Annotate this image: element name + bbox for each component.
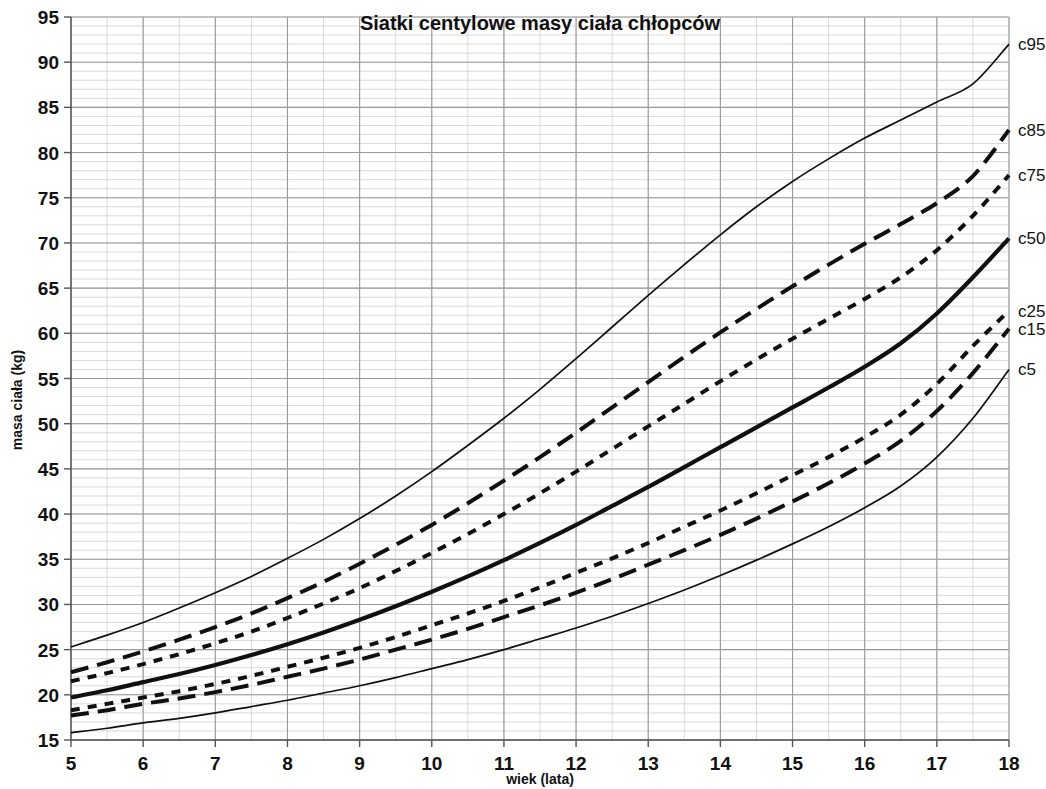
series-label-c15: c15 [1018,320,1045,339]
series-label-c25: c25 [1018,302,1045,321]
svg-text:85: 85 [38,97,60,118]
svg-text:9: 9 [354,753,365,774]
series-label-c75: c75 [1018,166,1045,185]
page-title: Siatki centylowe masy ciała chłopców [360,12,721,34]
svg-text:70: 70 [38,233,59,254]
svg-text:20: 20 [38,685,59,706]
svg-text:15: 15 [38,730,60,751]
series-label-c85: c85 [1018,121,1045,140]
svg-text:8: 8 [282,753,293,774]
svg-text:30: 30 [38,594,59,615]
series-label-c5: c5 [1018,360,1036,379]
svg-text:10: 10 [421,753,442,774]
svg-text:13: 13 [638,753,659,774]
svg-text:65: 65 [38,278,60,299]
svg-text:80: 80 [38,143,59,164]
svg-text:15: 15 [782,753,804,774]
svg-text:55: 55 [38,369,60,390]
svg-text:5: 5 [66,753,77,774]
chart-canvas: 1520253035404550556065707580859095 56789… [0,0,1046,789]
svg-text:40: 40 [38,504,59,525]
svg-text:90: 90 [38,52,59,73]
svg-text:75: 75 [38,188,60,209]
y-axis-title: masa ciała (kg) [9,350,25,450]
growth-chart: 1520253035404550556065707580859095 56789… [0,0,1046,789]
svg-text:14: 14 [710,753,732,774]
series-label-c50: c50 [1018,229,1045,248]
svg-text:60: 60 [38,323,59,344]
chart-background [0,0,1046,789]
svg-text:25: 25 [38,640,60,661]
x-axis-title: wiek (lata) [505,771,574,787]
svg-text:6: 6 [138,753,149,774]
svg-text:50: 50 [38,414,59,435]
svg-text:7: 7 [210,753,221,774]
series-label-c95: c95 [1018,35,1045,54]
svg-text:35: 35 [38,549,60,570]
svg-text:17: 17 [926,753,947,774]
svg-text:95: 95 [38,7,60,28]
svg-text:45: 45 [38,459,60,480]
svg-text:16: 16 [854,753,875,774]
svg-text:18: 18 [998,753,1019,774]
